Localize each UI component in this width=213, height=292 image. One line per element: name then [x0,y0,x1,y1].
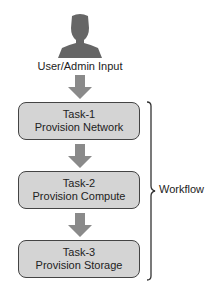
user-icon [54,12,106,58]
workflow-bracket-icon [145,100,157,282]
task-1-id: Task-1 [63,108,95,121]
task-2-name: Provision Compute [33,190,126,203]
user-admin-input-label: User/Admin Input [20,60,140,72]
down-arrow-icon [67,144,93,168]
task-1-box: Task-1 Provision Network [18,102,140,140]
down-arrow-icon [67,75,93,99]
task-3-id: Task-3 [63,246,95,259]
workflow-label: Workflow [159,183,204,195]
down-arrow-icon [67,213,93,237]
task-2-id: Task-2 [63,177,95,190]
task-2-box: Task-2 Provision Compute [18,171,140,209]
task-3-box: Task-3 Provision Storage [18,240,140,278]
task-1-name: Provision Network [35,121,124,134]
task-3-name: Provision Storage [36,259,123,272]
